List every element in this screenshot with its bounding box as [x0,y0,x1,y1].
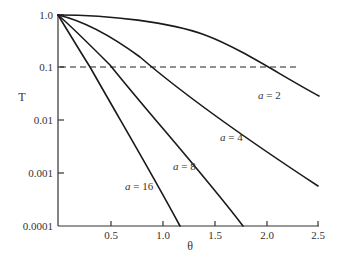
series-label-a-16: a = 16 [125,180,154,192]
curves [58,15,319,226]
x-tick-label: 0.5 [104,229,118,241]
y-tick-label: 0.1 [39,61,53,73]
chart: 1.0 0.1 0.01 0.001 0.0001 0.5 1.0 1.5 2.… [0,0,344,258]
x-axis-label: θ [187,239,193,253]
x-tick-label: 2.0 [260,229,274,241]
series-label-a-4: a = 4 [220,131,243,143]
curve-a-2 [58,15,319,96]
series-label-a-8: a = 8 [173,160,196,172]
axes [58,14,319,226]
y-tick-label: 0.0001 [23,220,53,232]
x-tick-label: 1.0 [156,229,170,241]
y-tick-label: 0.01 [34,114,53,126]
y-tick-label: 0.001 [28,167,53,179]
x-tick-label: 2.5 [311,229,325,241]
curve-a-16 [58,15,180,226]
curve-a-8 [58,15,243,226]
y-axis-label: T [18,90,26,104]
series-label-a-2: a = 2 [258,89,281,101]
y-tick-label: 1.0 [39,9,53,21]
x-tick-label: 1.5 [208,229,222,241]
